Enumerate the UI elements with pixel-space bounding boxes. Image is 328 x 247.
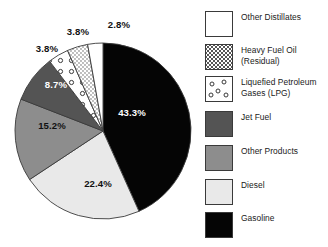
legend-item[interactable]: Heavy Fuel Oil (Residual) [205, 44, 297, 70]
chart-legend: Other DistillatesHeavy Fuel Oil (Residua… [205, 0, 328, 247]
legend-item[interactable]: Gasoline [205, 212, 274, 238]
legend-label: Diesel [241, 179, 265, 191]
legend-label: Heavy Fuel Oil (Residual) [241, 44, 297, 67]
legend-item[interactable]: Other Distillates [205, 11, 301, 37]
legend-swatch [205, 212, 233, 238]
legend-swatch [205, 44, 233, 70]
legend-swatch [205, 111, 233, 137]
legend-swatch [205, 76, 233, 102]
pie-slice-label: 22.4% [84, 178, 112, 189]
legend-label: Other Distillates [241, 11, 301, 23]
legend-label: Liquefied Petroleum Gases (LPG) [241, 76, 316, 99]
pie-slice-label: 3.8% [67, 26, 89, 37]
pie-slice-label: 43.3% [118, 107, 146, 118]
legend-label: Other Products [241, 145, 298, 157]
pie-slice-label: 15.2% [38, 120, 66, 131]
legend-item[interactable]: Other Products [205, 145, 298, 171]
legend-item[interactable]: Diesel [205, 179, 265, 205]
pie-slice-label: 8.7% [45, 79, 67, 90]
legend-swatch [205, 145, 233, 171]
legend-item[interactable]: Liquefied Petroleum Gases (LPG) [205, 76, 316, 102]
legend-label: Gasoline [241, 212, 274, 224]
legend-item[interactable]: Jet Fuel [205, 111, 271, 137]
pie-slice-label: 3.8% [36, 43, 58, 54]
pie-slice-label: 2.8% [108, 19, 130, 30]
pie-chart-plot-area: 43.3%22.4%15.2%8.7%3.8%3.8%2.8% [0, 0, 200, 247]
legend-swatch [205, 179, 233, 205]
pie-chart-svg [0, 0, 200, 247]
legend-swatch [205, 11, 233, 37]
pie-slices-group [15, 43, 191, 219]
legend-label: Jet Fuel [241, 111, 271, 123]
pie-chart-figure: 43.3%22.4%15.2%8.7%3.8%3.8%2.8% Other Di… [0, 0, 328, 247]
